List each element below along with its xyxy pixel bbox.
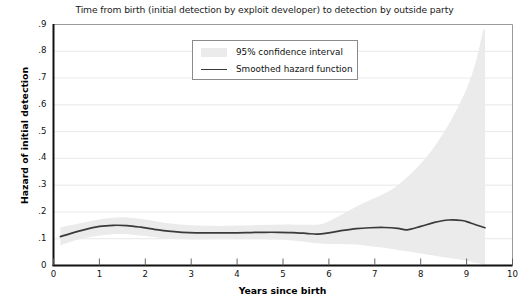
- y-tick-label: .6: [19, 99, 47, 109]
- x-tick-label: 4: [222, 269, 252, 279]
- chart-legend: 95% confidence interval Smoothed hazard …: [192, 40, 358, 80]
- y-tick-label: .9: [19, 19, 47, 29]
- x-tick-label: 5: [268, 269, 298, 279]
- band-swatch-icon: [201, 48, 227, 57]
- x-tick-label: 6: [314, 269, 344, 279]
- legend-label-confidence-interval: 95% confidence interval: [236, 47, 343, 57]
- y-tick-label: .8: [19, 45, 47, 55]
- legend-label-hazard-function: Smoothed hazard function: [236, 64, 353, 74]
- x-tick-label: 0: [39, 269, 69, 279]
- line-swatch-icon: [201, 69, 227, 70]
- legend-item-confidence-interval: 95% confidence interval: [201, 43, 343, 61]
- y-tick-label: .1: [19, 233, 47, 243]
- x-tick-label: 2: [130, 269, 160, 279]
- x-tick-label: 3: [176, 269, 206, 279]
- y-tick-label: .7: [19, 72, 47, 82]
- hazard-chart: Time from birth (initial detection by ex…: [0, 0, 529, 305]
- legend-item-hazard-function: Smoothed hazard function: [201, 60, 353, 78]
- axis-tickmarks: [54, 259, 513, 266]
- y-tick-label: .5: [19, 126, 47, 136]
- y-tick-label: .2: [19, 206, 47, 216]
- x-tick-label: 8: [406, 269, 436, 279]
- y-tick-label: .4: [19, 152, 47, 162]
- x-tick-label: 9: [452, 269, 482, 279]
- x-tick-label: 7: [360, 269, 390, 279]
- x-tick-label: 1: [84, 269, 114, 279]
- x-tick-label: 10: [498, 269, 528, 279]
- y-tick-label: 0: [19, 260, 47, 270]
- y-tick-label: .3: [19, 179, 47, 189]
